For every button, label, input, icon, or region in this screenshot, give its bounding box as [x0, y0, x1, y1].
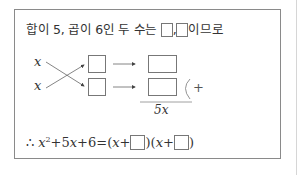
lhs-rest: +5	[51, 135, 70, 150]
factor2-x: x	[156, 135, 163, 150]
factor1-plus: +	[120, 135, 131, 150]
product-blank-top[interactable]	[148, 55, 177, 73]
lhs-const: +6=(	[77, 135, 112, 150]
cross-line-down	[46, 62, 84, 86]
lhs-x2: x	[70, 135, 77, 150]
factor-blank-bottom[interactable]	[88, 78, 106, 96]
factor2-plus: +	[163, 135, 174, 150]
cross-line-up	[46, 65, 84, 88]
left-term-1: x	[34, 54, 41, 69]
factor2-blank[interactable]	[174, 135, 189, 150]
conclusion-line: ∴ x2+5x+6=(x+)(x+)	[26, 131, 194, 152]
sum-bracket	[186, 79, 191, 99]
sum-label: 5x	[154, 103, 168, 117]
factor2-close: )	[189, 135, 194, 150]
left-term-2: x	[34, 78, 41, 93]
factor1-blank[interactable]	[130, 135, 145, 150]
bracket-plus: +	[193, 80, 204, 95]
product-blank-bottom[interactable]	[148, 78, 177, 96]
therefore-symbol: ∴	[26, 135, 34, 150]
factor1-x: x	[112, 135, 119, 150]
factor1-close: )(	[145, 135, 155, 150]
factor-blank-top[interactable]	[88, 55, 106, 73]
